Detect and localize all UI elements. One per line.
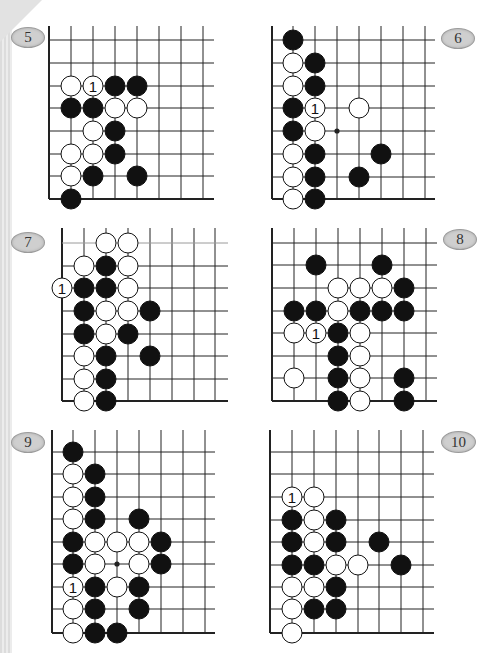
board-6: 1: [272, 26, 435, 209]
black-stone: [105, 144, 125, 164]
white-stone: [74, 256, 94, 276]
black-stone: [118, 324, 138, 344]
white-stone: [350, 391, 370, 411]
black-stone: [140, 301, 160, 321]
problem-number-badge: 9: [11, 432, 45, 453]
move-number-label: 1: [312, 325, 320, 342]
problem-number-badge: 10: [441, 431, 476, 453]
black-stone: [305, 189, 325, 209]
board-8: 1: [272, 228, 437, 411]
board-7: 1: [52, 228, 228, 411]
white-stone: [85, 532, 105, 552]
black-stone: [284, 301, 304, 321]
white-stone: [282, 623, 302, 643]
black-stone: [63, 532, 83, 552]
black-stone: [394, 278, 414, 298]
black-stone: [107, 623, 127, 643]
black-stone: [129, 509, 149, 529]
black-stone: [96, 369, 116, 389]
white-stone: [284, 323, 304, 343]
white-stone: [350, 346, 370, 366]
black-stone: [61, 189, 81, 209]
black-stone: [85, 623, 105, 643]
white-stone: [350, 278, 370, 298]
white-stone: [282, 599, 302, 619]
white-stone: [328, 278, 348, 298]
white-stone: [63, 599, 83, 619]
white-stone: [283, 76, 303, 96]
white-stone: [85, 554, 105, 574]
white-stone: [63, 487, 83, 507]
black-stone: [74, 324, 94, 344]
white-stone: [282, 577, 302, 597]
white-stone: [74, 369, 94, 389]
black-stone: [283, 30, 303, 50]
black-stone: [151, 532, 171, 552]
black-stone: [305, 167, 325, 187]
board-5: 1: [49, 26, 214, 209]
go-problem-diagrams: 111111: [0, 0, 477, 653]
white-stone: [283, 144, 303, 164]
black-stone: [63, 442, 83, 462]
black-stone: [394, 368, 414, 388]
black-stone: [127, 166, 147, 186]
white-stone: [96, 301, 116, 321]
problem-number-badge: 5: [11, 27, 45, 48]
white-stone: [118, 301, 138, 321]
white-stone: [63, 464, 83, 484]
move-number-label: 1: [288, 489, 296, 506]
white-stone: [350, 323, 370, 343]
black-stone: [83, 98, 103, 118]
white-stone: [304, 487, 324, 507]
black-stone: [326, 532, 346, 552]
black-stone: [96, 391, 116, 411]
black-stone: [328, 323, 348, 343]
board-10: 1: [270, 430, 434, 643]
white-stone: [326, 555, 346, 575]
white-stone: [129, 532, 149, 552]
white-stone: [372, 278, 392, 298]
white-stone: [283, 53, 303, 73]
black-stone: [372, 301, 392, 321]
black-stone: [105, 121, 125, 141]
black-stone: [394, 391, 414, 411]
move-number-label: 1: [311, 100, 319, 117]
black-stone: [83, 166, 103, 186]
black-stone: [349, 167, 369, 187]
problem-number-badge: 6: [441, 28, 475, 49]
black-stone: [326, 510, 346, 530]
black-stone: [85, 464, 105, 484]
black-stone: [304, 555, 324, 575]
black-stone: [328, 346, 348, 366]
black-stone: [283, 121, 303, 141]
move-number-label: 1: [69, 579, 77, 596]
white-stone: [348, 555, 368, 575]
white-stone: [118, 278, 138, 298]
white-stone: [349, 98, 369, 118]
white-stone: [350, 368, 370, 388]
white-stone: [305, 121, 325, 141]
black-stone: [140, 346, 160, 366]
black-stone: [391, 555, 411, 575]
white-stone: [328, 301, 348, 321]
black-stone: [129, 599, 149, 619]
white-stone: [284, 368, 304, 388]
white-stone: [61, 144, 81, 164]
white-stone: [304, 532, 324, 552]
white-stone: [74, 391, 94, 411]
problem-number-badge: 8: [443, 229, 477, 250]
black-stone: [282, 555, 302, 575]
black-stone: [305, 144, 325, 164]
star-point-icon: [114, 561, 119, 566]
black-stone: [96, 256, 116, 276]
white-stone: [96, 233, 116, 253]
black-stone: [129, 577, 149, 597]
white-stone: [63, 623, 83, 643]
white-stone: [83, 144, 103, 164]
star-point-icon: [334, 128, 339, 133]
white-stone: [127, 98, 147, 118]
black-stone: [371, 144, 391, 164]
black-stone: [127, 76, 147, 96]
black-stone: [304, 599, 324, 619]
white-stone: [105, 98, 125, 118]
